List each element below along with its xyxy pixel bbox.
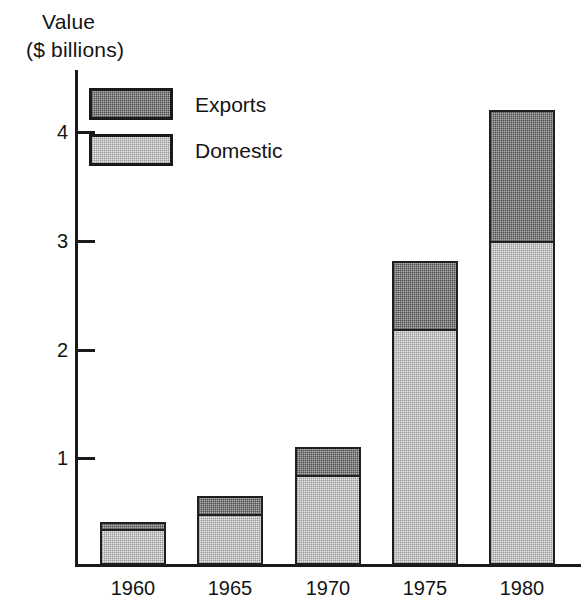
exports-swatch-icon [89,88,173,120]
bar-1965-segment-exports [197,496,263,516]
x-label-1980: 1980 [483,576,561,600]
bar-1965 [197,496,263,565]
bar-1970-segment-exports [295,447,361,477]
y-tick-label-1: 1 [38,448,68,468]
bar-1980 [489,110,555,565]
y-axis-title: Value ($ billions) [26,8,124,64]
bar-1970 [295,447,361,565]
y-tick-2 [78,349,95,352]
y-axis-title-line-2: ($ billions) [26,36,124,64]
y-tick-label-2: 2 [38,340,68,360]
bar-1980-segment-domestic [489,241,555,565]
y-tick-3 [78,240,95,243]
bar-1960-segment-domestic [100,529,166,565]
y-axis-title-line-1: Value [26,8,124,36]
x-label-1960: 1960 [94,576,172,600]
y-axis-line [75,70,78,567]
y-tick-1 [78,457,95,460]
y-tick-label-4: 4 [38,122,68,142]
bar-1970-segment-domestic [295,475,361,565]
bar-1980-segment-exports [489,110,555,243]
x-label-1965: 1965 [191,576,269,600]
x-label-1970: 1970 [289,576,367,600]
legend-label-domestic: Domestic [195,140,283,161]
bar-1965-segment-domestic [197,514,263,565]
legend-item-domestic: Domestic [89,134,283,166]
legend-item-exports: Exports [89,88,266,120]
domestic-swatch-icon [89,134,173,166]
bar-1975 [392,261,458,565]
y-tick-label-3: 3 [38,231,68,251]
x-label-1975: 1975 [386,576,464,600]
bar-1960 [100,522,166,565]
bar-1975-segment-domestic [392,329,458,565]
stacked-bar-chart: Value ($ billions) 4 3 2 1 1960 1965 197… [0,0,586,616]
bar-1975-segment-exports [392,261,458,331]
legend-label-exports: Exports [195,94,266,115]
